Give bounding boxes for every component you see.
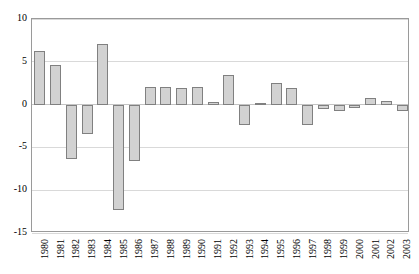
bar — [255, 103, 266, 105]
bar — [176, 88, 187, 104]
x-tick-label: 1998 — [315, 233, 329, 273]
x-tick-label: 1999 — [331, 233, 345, 273]
bar — [381, 101, 392, 104]
x-tick-label: 1983 — [79, 233, 93, 273]
bar — [66, 105, 77, 159]
x-tick-label: 1984 — [95, 233, 109, 273]
bar-chart: 1050-5-10-15 198019811982198319841985198… — [0, 0, 419, 274]
y-tick-label: -15 — [0, 227, 27, 237]
bar — [113, 105, 124, 210]
x-tick-label: 1987 — [142, 233, 156, 273]
x-tick-label: 1986 — [126, 233, 140, 273]
bar — [318, 105, 329, 109]
x-tick-label: 1981 — [48, 233, 62, 273]
x-tick-label: 2001 — [363, 233, 377, 273]
bar — [334, 105, 345, 112]
y-tick-label: -5 — [0, 141, 27, 151]
x-tick-label: 1995 — [268, 233, 282, 273]
x-tick-label: 1990 — [189, 233, 203, 273]
bar — [82, 105, 93, 134]
x-tick-label: 1992 — [221, 233, 235, 273]
bar — [192, 87, 203, 105]
bar — [129, 105, 140, 161]
bar — [160, 87, 171, 105]
bar — [50, 65, 61, 104]
bar — [239, 105, 250, 126]
y-tick-label: 5 — [0, 56, 27, 66]
bar — [208, 102, 219, 105]
y-tick-label: 0 — [0, 99, 27, 109]
bar — [145, 87, 156, 104]
bar — [349, 105, 360, 108]
x-tick-label: 1991 — [205, 233, 219, 273]
y-tick-label: 10 — [0, 13, 27, 23]
bar — [286, 88, 297, 104]
x-tick-label: 2003 — [394, 233, 408, 273]
y-tick-label: -10 — [0, 184, 27, 194]
bar — [271, 83, 282, 104]
bar — [302, 105, 313, 126]
x-tick-label: 2002 — [378, 233, 392, 273]
x-tick-label: 1985 — [111, 233, 125, 273]
plot-area — [31, 18, 409, 232]
x-tick-label: 1989 — [174, 233, 188, 273]
x-tick-label: 1993 — [237, 233, 251, 273]
bar — [223, 75, 234, 104]
x-tick-label: 1988 — [158, 233, 172, 273]
x-tick-label: 1997 — [300, 233, 314, 273]
x-tick-text: 2003 — [401, 239, 412, 259]
bar — [34, 51, 45, 105]
x-tick-label: 2000 — [347, 233, 361, 273]
bar — [397, 105, 408, 112]
x-tick-label: 1996 — [284, 233, 298, 273]
x-axis-labels: 1980198119821983198419851986198719881989… — [31, 233, 409, 274]
x-tick-label: 1994 — [252, 233, 266, 273]
bar — [365, 98, 376, 105]
x-tick-label: 1980 — [32, 233, 46, 273]
bars-layer — [32, 19, 408, 231]
x-tick-label: 1982 — [63, 233, 77, 273]
bar — [97, 44, 108, 105]
